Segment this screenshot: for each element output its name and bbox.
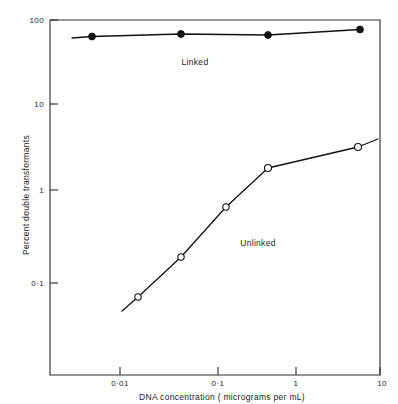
data-point-unlinked-4 bbox=[265, 165, 272, 172]
y-axis-ticks bbox=[50, 20, 58, 283]
scientific-line-chart: 100 10 1 0·1 Percent double transformant… bbox=[0, 0, 398, 404]
data-point-linked-3 bbox=[265, 32, 272, 39]
y-tick-label-0-1: 0·1 bbox=[31, 279, 44, 288]
y-axis-title: Percent double transformants bbox=[21, 135, 31, 255]
data-point-unlinked-3 bbox=[223, 204, 229, 210]
x-tick-label-1: 1 bbox=[294, 379, 299, 388]
data-point-unlinked-1 bbox=[135, 294, 141, 300]
series-linked-line bbox=[72, 30, 360, 39]
series-unlinked-line bbox=[122, 139, 378, 311]
series-label-linked: Linked bbox=[182, 57, 209, 67]
y-tick-label-100: 100 bbox=[29, 16, 44, 25]
x-tick-label-10: 10 bbox=[377, 379, 387, 388]
data-point-linked-1 bbox=[89, 33, 96, 40]
x-axis-title: DNA concentration ( micrograms per mL) bbox=[139, 392, 305, 402]
data-point-unlinked-2 bbox=[178, 254, 184, 260]
y-tick-label-10: 10 bbox=[34, 100, 44, 109]
series-unlinked bbox=[122, 139, 378, 311]
y-axis-tick-labels: 100 10 1 0·1 bbox=[29, 16, 44, 288]
data-point-linked-4 bbox=[357, 26, 364, 33]
x-tick-label-0-01: 0·01 bbox=[111, 379, 129, 388]
data-point-linked-2 bbox=[178, 31, 185, 38]
series-linked bbox=[72, 26, 363, 40]
series-label-unlinked: Unlinked bbox=[240, 238, 275, 248]
x-axis-ticks bbox=[120, 367, 380, 375]
y-tick-label-1: 1 bbox=[39, 186, 44, 195]
plot-frame bbox=[50, 20, 380, 375]
x-tick-label-0-1: 0·1 bbox=[212, 379, 225, 388]
x-axis-tick-labels: 0·01 0·1 1 10 bbox=[111, 379, 387, 388]
data-point-unlinked-5 bbox=[355, 144, 362, 151]
